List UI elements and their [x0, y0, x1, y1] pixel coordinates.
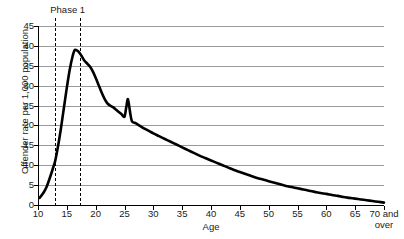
- x-axis-title: Age: [38, 221, 384, 232]
- offender-rate-curve: [0, 0, 404, 239]
- offender-rate-by-age-chart: Offender rate per 1,000 population 05101…: [0, 0, 404, 239]
